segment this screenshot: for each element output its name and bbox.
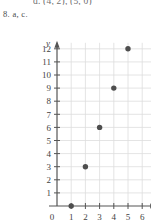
y-tick-label: 8 <box>47 96 52 106</box>
data-point <box>125 46 130 51</box>
data-point <box>83 164 88 169</box>
scatter-plot: 0123456 123456789101112 yx <box>0 16 151 223</box>
gridlines <box>57 43 151 206</box>
y-tick-label: 4 <box>47 149 52 159</box>
y-tick-label: 10 <box>42 70 52 80</box>
y-tick-label: 2 <box>47 175 52 185</box>
data-point <box>111 85 116 90</box>
x-tick-label: 4 <box>112 212 117 222</box>
x-tick-label: 5 <box>126 212 131 222</box>
y-tick-label: 3 <box>47 162 52 172</box>
scatter-plot-svg: 0123456 123456789101112 yx <box>0 16 151 223</box>
x-tick-label: 0 <box>50 212 55 222</box>
y-tick-label: 5 <box>47 136 52 146</box>
data-point <box>97 125 102 130</box>
x-tick-label: 1 <box>69 212 74 222</box>
y-axis-arrowhead <box>54 41 59 48</box>
y-tick-label: 1 <box>47 188 52 198</box>
x-tick-label: 3 <box>97 212 102 222</box>
x-tick-label: 6 <box>140 212 145 222</box>
y-tick-label: 7 <box>47 110 52 120</box>
x-tick-labels: 0123456 <box>50 212 145 222</box>
y-tick-label: 9 <box>47 83 52 93</box>
y-tick-labels: 123456789101112 <box>42 44 52 198</box>
x-axis-arrowhead <box>150 203 151 208</box>
data-point <box>69 203 74 208</box>
y-axis-label: y <box>45 38 50 48</box>
y-tick-label: 11 <box>42 57 51 67</box>
y-tick-label: 6 <box>47 123 52 133</box>
cutoff-answer-text: d. (4, 2), (5, 0) <box>33 0 92 5</box>
x-tick-label: 2 <box>83 212 88 222</box>
